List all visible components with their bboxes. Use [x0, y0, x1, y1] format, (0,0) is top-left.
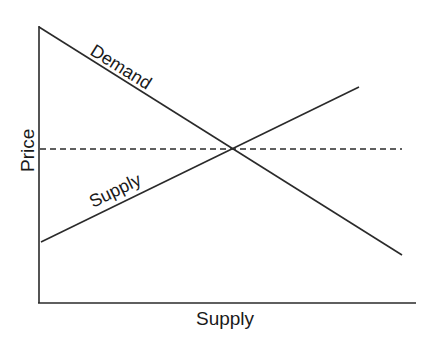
x-axis-label: Supply	[196, 308, 255, 329]
supply-demand-diagram: Demand Supply Price Supply	[0, 0, 434, 344]
y-axis-label: Price	[17, 129, 38, 172]
demand-label: Demand	[87, 40, 155, 93]
supply-curve	[41, 87, 359, 242]
